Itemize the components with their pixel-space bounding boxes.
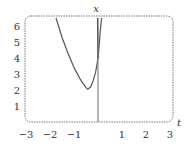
y-tick-label: 6 — [14, 21, 20, 32]
x-tick-label: 3 — [167, 129, 173, 140]
x-tick-label: −1 — [67, 129, 82, 140]
y-tick-label: 5 — [14, 37, 20, 48]
y-tick-label: 4 — [14, 53, 20, 64]
steep-line-line — [98, 18, 99, 58]
x-tick-label: −3 — [19, 129, 34, 140]
y-tick-labels: 123456 — [14, 21, 20, 112]
solution-curve-line — [56, 18, 102, 89]
chart: 123456 −3−2−1123 x t — [0, 0, 192, 146]
y-tick-label: 2 — [14, 85, 20, 96]
x-tick-label: −2 — [43, 129, 58, 140]
plot-frame — [25, 16, 173, 122]
x-tick-labels: −3−2−1123 — [19, 129, 174, 140]
x-axis-label: t — [177, 117, 182, 128]
y-axis-label: x — [93, 3, 99, 14]
x-tick-label: 1 — [119, 129, 125, 140]
x-tick-label: 2 — [143, 129, 149, 140]
series-group — [56, 18, 102, 122]
y-tick-label: 3 — [14, 69, 20, 80]
y-tick-label: 1 — [14, 101, 20, 112]
